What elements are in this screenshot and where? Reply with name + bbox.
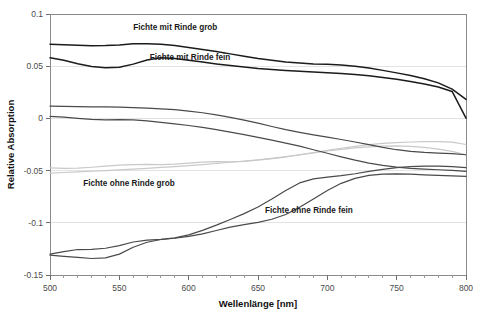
x-axis-tick-label: 550: [112, 283, 126, 293]
x-axis-tick-label: 800: [459, 283, 473, 293]
data-series-line: [50, 58, 466, 118]
series-annotation-label: Fichte ohne Rinde grob: [83, 179, 174, 188]
y-axis-title: Relative Absorption: [5, 100, 16, 190]
y-axis-tick-label: -0.05: [24, 166, 44, 176]
figure-caption: [0, 304, 483, 316]
data-series-line: [50, 116, 466, 171]
y-axis-tick-label: 0.1: [31, 9, 43, 19]
series-annotation-label: Fichte mit Rinde fein: [150, 53, 231, 62]
x-axis-tick-label: 650: [251, 283, 265, 293]
series-annotation-label: Fichte ohne Rinde fein: [265, 206, 353, 215]
data-series-line: [50, 44, 466, 100]
y-axis-tick-label: -0.15: [24, 270, 44, 280]
y-axis-tick-label: 0.05: [26, 61, 43, 71]
y-axis-tick-label: 0: [38, 113, 43, 123]
chart-figure: 0.10.050-0.05-0.1-0.15500550600650700750…: [0, 0, 483, 316]
x-axis-tick-label: 700: [320, 283, 334, 293]
x-axis-tick-label: 500: [43, 283, 57, 293]
plot-frame: [50, 14, 466, 275]
series-annotation-label: Fichte mit Rinde grob: [133, 23, 217, 32]
x-axis-tick-label: 600: [182, 283, 196, 293]
y-axis-tick-label: -0.1: [28, 218, 43, 228]
data-series-line: [50, 106, 466, 155]
x-axis-tick-label: 750: [390, 283, 404, 293]
chart-canvas: 0.10.050-0.05-0.1-0.15500550600650700750…: [0, 0, 483, 316]
